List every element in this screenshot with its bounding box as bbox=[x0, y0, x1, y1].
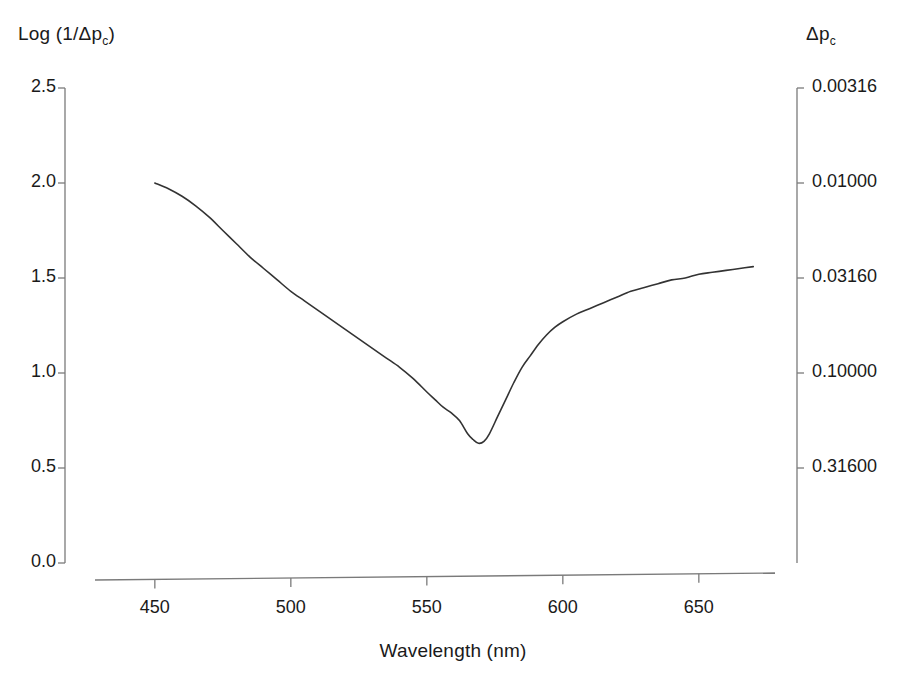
chart-figure: Log (1/Δpc) Δpc Wavelength (nm) 0.00.51.… bbox=[0, 0, 906, 691]
plot-canvas bbox=[0, 0, 906, 691]
data-line-series-0 bbox=[155, 183, 753, 443]
x-axis-spine bbox=[95, 573, 775, 580]
data-series-group bbox=[155, 183, 753, 443]
axis-lines bbox=[58, 88, 804, 588]
